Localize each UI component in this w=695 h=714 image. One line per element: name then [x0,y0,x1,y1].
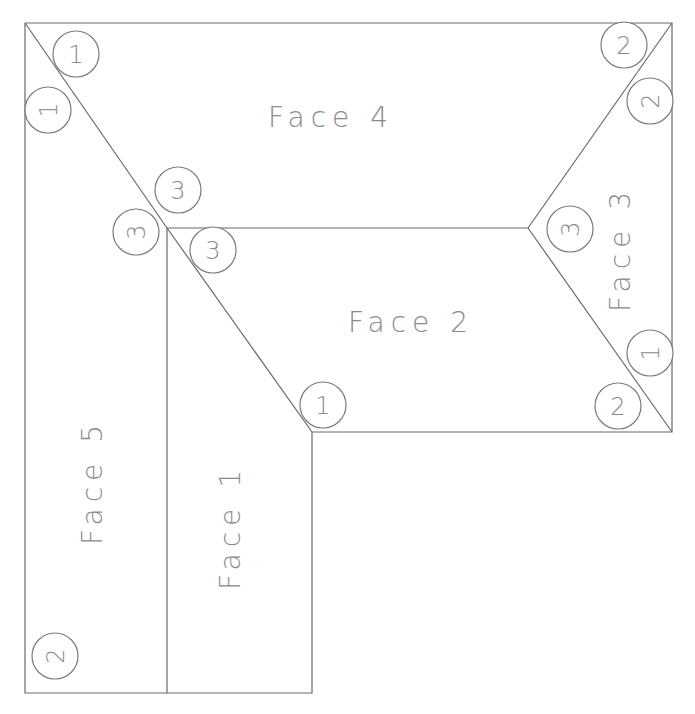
marker: 1 [300,382,346,428]
svg-text:3: 3 [205,237,220,265]
face5-label: Face 5 [76,419,109,545]
hip-line-valley [167,228,312,432]
svg-text:2: 2 [637,93,665,108]
marker: 3 [113,209,159,255]
face1-label: Face 1 [214,464,247,590]
svg-text:2: 2 [610,393,625,421]
marker: 1 [25,87,71,133]
roof-diagram: Face 4 Face 2 Face 3 Face 5 Face 1 1 1 3… [0,0,695,714]
marker: 3 [547,206,593,252]
marker: 2 [627,78,673,124]
marker: 2 [601,22,647,68]
svg-text:1: 1 [315,392,330,420]
svg-text:1: 1 [637,345,665,360]
marker: 3 [155,167,201,213]
svg-text:3: 3 [123,224,151,239]
svg-text:1: 1 [35,102,63,117]
marker: 2 [32,633,78,679]
face3-label: Face 3 [604,186,637,312]
svg-text:2: 2 [42,648,70,663]
marker: 1 [627,330,673,376]
marker: 2 [595,383,641,429]
hip-line-top-right [528,23,672,228]
svg-text:2: 2 [616,32,631,60]
svg-text:1: 1 [68,41,83,69]
svg-text:3: 3 [170,177,185,205]
svg-text:3: 3 [557,221,585,236]
marker: 3 [190,227,236,273]
face4-label: Face 4 [268,101,394,134]
face2-label: Face 2 [348,306,474,339]
marker: 1 [53,31,99,77]
